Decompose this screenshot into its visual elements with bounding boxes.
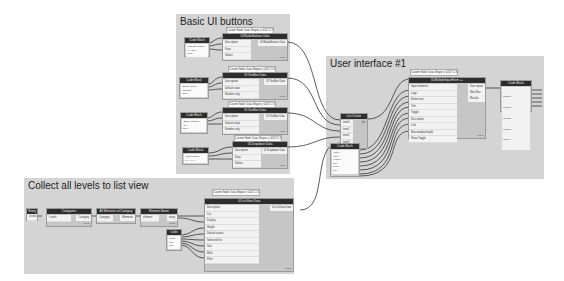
code-text[interactable]: "Pick"; 300; true; xyxy=(168,236,180,249)
node-all-elements-of-category[interactable]: All Elements of Category Category Elemen… xyxy=(96,208,136,224)
node-title: Code Block xyxy=(183,148,208,153)
code-block-outputs[interactable]: Code Block item[0]; item[1]; item[2]; it… xyxy=(500,80,532,112)
code-text[interactable]: "Enter value"; "Default"; false; xyxy=(181,84,207,97)
code-text[interactable]: "Choose option"; {"A","B"}; {1,2}; xyxy=(186,44,208,57)
node-title: Code Block xyxy=(181,113,207,118)
code-block[interactable]: Code Block "Enter number"; "0"; true; xyxy=(180,112,208,134)
output-port[interactable]: list xyxy=(360,120,367,126)
input-port[interactable]: Show Toggle xyxy=(409,136,457,143)
output-line[interactable]: item[0]; xyxy=(503,95,529,99)
input-port[interactable]: Number only xyxy=(223,92,259,99)
input-port[interactable]: element xyxy=(141,215,159,222)
input-port[interactable]: Values xyxy=(223,53,251,60)
node-title: Code Block xyxy=(501,81,531,86)
output-port[interactable]: UI.TextBox Data xyxy=(264,79,287,85)
output-port[interactable]: UI.RadioButtons Data xyxy=(258,40,287,46)
node-radio-buttons[interactable]: UI.RadioButtons Data Description Keys Va… xyxy=(222,33,288,61)
lacing-label: AUTO xyxy=(278,130,285,133)
node-listview[interactable]: UI.ListView Data Description List Displa… xyxy=(204,198,294,272)
output-port[interactable]: User inputs xyxy=(468,84,485,90)
lacing-label: AUTO xyxy=(278,56,285,59)
output-line[interactable]: item[1]; xyxy=(503,106,529,110)
node-element-name[interactable]: Element.Name element string AUTO xyxy=(140,208,178,227)
node-categories[interactable]: Categories Levels Category AUTO xyxy=(46,208,92,227)
code-block[interactable]: Code Block "Select item"; {"X","Y"}; xyxy=(182,147,209,165)
note: Custom Node: Data-Shapes | v2017.2.3 xyxy=(212,189,260,196)
input-port[interactable]: Number only xyxy=(223,127,259,134)
code-block[interactable]: Code Block "Enter value"; "Default"; fal… xyxy=(179,77,209,99)
node-title: Code Block xyxy=(167,230,181,235)
node-string[interactable]: String Levels xyxy=(26,208,38,221)
code-text[interactable]: "Title"; "OK"; "Form"; true; "Info"; nul… xyxy=(332,150,358,174)
node-textbox-number[interactable]: UI.TextBox Data Description Default valu… xyxy=(222,107,288,135)
note: Custom Node: Data-Shapes | v2017.2.3 xyxy=(410,69,458,76)
output-port[interactable]: UI.ListView Data xyxy=(270,205,293,211)
code-block[interactable]: Code Block "Pick"; 300; true; xyxy=(166,229,182,251)
lacing-label: AUTO xyxy=(278,164,285,167)
lacing-label: AUTO xyxy=(284,267,291,270)
node-title: Code Block xyxy=(180,78,208,83)
output-line[interactable]: item[4]; xyxy=(503,138,529,142)
output-line[interactable]: item[2]; xyxy=(503,117,529,121)
output-port[interactable]: Results xyxy=(468,96,485,102)
lacing-label: AUTO xyxy=(278,95,285,98)
input-port[interactable]: Filter xyxy=(205,257,259,264)
output-port[interactable]: Elements xyxy=(120,215,135,221)
node-title: Code Block xyxy=(331,144,359,149)
lacing-label: AUTO xyxy=(168,222,175,225)
code-text[interactable]: "Select item"; {"X","Y"}; xyxy=(184,154,207,163)
node-dropdown[interactable]: UI.Dropdown Data Description Keys Values… xyxy=(232,141,288,169)
output-port[interactable]: string xyxy=(167,215,177,221)
lacing-label: AUTO xyxy=(476,134,483,137)
node-multiple-input-form[interactable]: UI.MultipleInputForm ++ Input elements L… xyxy=(408,77,486,139)
string-value[interactable]: Levels xyxy=(27,214,37,221)
node-textbox[interactable]: UI.TextBox Data Description Default valu… xyxy=(222,72,288,100)
output-port[interactable]: UI.Dropdown Data xyxy=(262,148,287,154)
code-block[interactable]: Code Block "Title"; "OK"; "Form"; true; … xyxy=(330,143,360,177)
category-dropdown[interactable]: Levels xyxy=(47,215,71,222)
code-block[interactable]: Code Block "Choose option"; {"A","B"}; {… xyxy=(184,37,210,57)
input-port[interactable]: Category xyxy=(97,215,113,222)
input-port[interactable]: Values xyxy=(233,161,261,168)
node-title: Code Block xyxy=(185,38,209,43)
output-line[interactable]: item[3]; xyxy=(503,128,529,132)
output-port[interactable]: UI.TextBox Data xyxy=(264,114,287,120)
lacing-label: AUTO xyxy=(82,222,89,225)
code-text[interactable]: "Enter number"; "0"; true; xyxy=(182,119,206,132)
output-port[interactable]: Category xyxy=(76,215,91,221)
output-port[interactable]: Was Run xyxy=(468,90,485,96)
